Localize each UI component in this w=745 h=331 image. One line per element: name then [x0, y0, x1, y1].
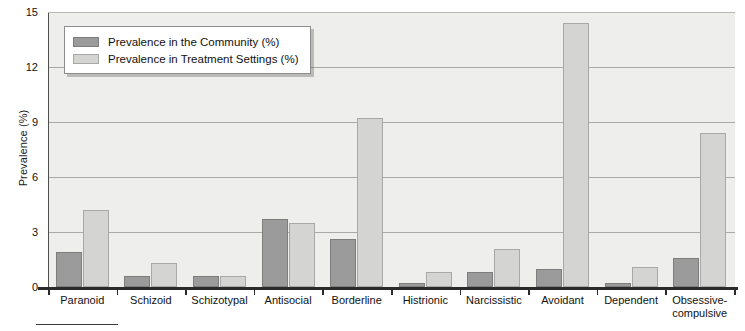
x-tick-label: Antisocial — [254, 294, 323, 307]
bar-community — [330, 239, 356, 287]
legend-item-treatment: Prevalence in Treatment Settings (%) — [73, 50, 298, 67]
bar-chart: Prevalence (%) 03691215 ParanoidSchizoid… — [0, 0, 745, 331]
bar-treatment — [563, 23, 589, 287]
bar-community — [124, 276, 150, 287]
legend-swatch-community-icon — [73, 37, 99, 47]
caption-divider — [36, 324, 118, 325]
bar-treatment — [151, 263, 177, 287]
y-tick-label: 0 — [14, 282, 38, 292]
legend-label-treatment: Prevalence in Treatment Settings (%) — [108, 53, 298, 65]
y-tick-label: 9 — [14, 117, 38, 127]
bar-community — [193, 276, 219, 287]
x-tick-label: Borderline — [322, 294, 391, 307]
bar-treatment — [289, 223, 315, 287]
y-tick-label: 15 — [14, 7, 38, 17]
bar-treatment — [357, 118, 383, 287]
y-tick-label: 6 — [14, 172, 38, 182]
bar-community — [536, 269, 562, 287]
x-tick-label: Avoidant — [528, 294, 597, 307]
bar-treatment — [632, 267, 658, 287]
bar-community — [262, 219, 288, 287]
bar-community — [673, 258, 699, 287]
x-tick-label: Schizoid — [117, 294, 186, 307]
x-tick-label: Schizotypal — [185, 294, 254, 307]
x-tick-label: Narcissistic — [460, 294, 529, 307]
bar-community — [467, 272, 493, 287]
x-tick-label: Dependent — [597, 294, 666, 307]
bar-treatment — [83, 210, 109, 287]
legend-label-community: Prevalence in the Community (%) — [108, 36, 279, 48]
bar-treatment — [426, 272, 452, 287]
bar-community — [56, 252, 82, 287]
x-tick-label: Paranoid — [48, 294, 117, 307]
bar-treatment — [700, 133, 726, 287]
legend-swatch-treatment-icon — [73, 54, 99, 64]
x-tick-label: Obsessive- compulsive — [665, 294, 734, 320]
y-tick-label: 3 — [14, 227, 38, 237]
legend: Prevalence in the Community (%) Prevalen… — [64, 26, 311, 74]
x-tickmark — [734, 289, 736, 295]
bar-treatment — [220, 276, 246, 287]
y-axis-ticks: 03691215 — [10, 0, 38, 331]
y-tick-label: 12 — [14, 62, 38, 72]
legend-item-community: Prevalence in the Community (%) — [73, 33, 298, 50]
x-tick-label: Histrionic — [391, 294, 460, 307]
bar-treatment — [494, 249, 520, 288]
x-axis-labels: ParanoidSchizoidSchizotypalAntisocialBor… — [48, 294, 734, 331]
